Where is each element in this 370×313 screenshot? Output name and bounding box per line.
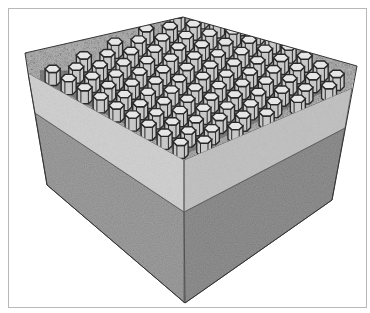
- cell-opening: [164, 86, 179, 93]
- cell-opening: [149, 109, 164, 116]
- cell-opening: [250, 56, 265, 63]
- cell-opening: [61, 74, 76, 81]
- cell-opening: [204, 93, 219, 100]
- cell-opening: [69, 63, 84, 70]
- cell-opening: [109, 102, 124, 109]
- cell-opening: [188, 84, 203, 91]
- cell-wall: [217, 10, 232, 27]
- cell-opening: [243, 100, 258, 107]
- cell-opening: [187, 52, 202, 59]
- cell-opening: [141, 120, 156, 127]
- cell-opening: [201, 0, 216, 5]
- cell-opening: [242, 68, 257, 75]
- cell-opening: [251, 88, 266, 95]
- cell-opening: [322, 82, 337, 89]
- cell-opening: [226, 59, 241, 66]
- cell-opening: [180, 95, 195, 102]
- cell-opening: [148, 77, 163, 84]
- cell-opening: [249, 25, 264, 32]
- cell-opening: [274, 86, 289, 93]
- cell-opening: [157, 129, 172, 136]
- cell-opening: [258, 45, 273, 52]
- cell-opening: [131, 36, 146, 43]
- cell-opening: [162, 22, 177, 29]
- cell-opening: [258, 77, 273, 84]
- cell-opening: [219, 70, 234, 77]
- cell-opening: [155, 34, 170, 41]
- cell-opening: [116, 59, 131, 66]
- cell-opening: [194, 9, 209, 16]
- cell-opening: [108, 38, 123, 45]
- cell-opening: [92, 61, 107, 68]
- cell-opening: [156, 65, 171, 72]
- cell-opening: [233, 16, 248, 23]
- cell-opening: [140, 88, 155, 95]
- cell-opening: [101, 81, 116, 88]
- cell-opening: [172, 106, 187, 113]
- cell-opening: [227, 91, 242, 98]
- cell-opening: [267, 97, 282, 104]
- cell-opening: [274, 54, 289, 61]
- cell-opening: [125, 111, 140, 118]
- cell-opening: [173, 138, 188, 145]
- cell-opening: [147, 45, 162, 52]
- cell-opening: [282, 75, 297, 82]
- cell-opening: [228, 122, 243, 129]
- cell-opening: [290, 63, 305, 70]
- cell-opening: [181, 127, 196, 134]
- cell-opening: [45, 65, 60, 72]
- cell-opening: [265, 34, 280, 41]
- cell-opening: [298, 84, 313, 91]
- cell-opening: [172, 75, 187, 82]
- cell-opening: [178, 31, 193, 38]
- cell-opening: [236, 111, 251, 118]
- cell-opening: [329, 70, 344, 77]
- cell-opening: [171, 43, 186, 50]
- cell-opening: [133, 99, 148, 106]
- cell-opening: [210, 18, 225, 25]
- cell-opening: [211, 81, 226, 88]
- cell-opening: [266, 66, 281, 73]
- cell-opening: [218, 38, 233, 45]
- cell-opening: [93, 93, 108, 100]
- geocell-diagram: [0, 0, 370, 313]
- cell-opening: [188, 115, 203, 122]
- cell-opening: [124, 47, 139, 54]
- cell-wall: [201, 1, 216, 18]
- cell-opening: [204, 125, 219, 132]
- cell-opening: [194, 40, 209, 47]
- cell-opening: [85, 72, 100, 79]
- cell-opening: [117, 90, 132, 97]
- cell-opening: [212, 113, 227, 120]
- cell-opening: [100, 49, 115, 56]
- cell-opening: [210, 50, 225, 57]
- cell-opening: [235, 79, 250, 86]
- cell-opening: [234, 47, 249, 54]
- cell-opening: [179, 63, 194, 70]
- cell-opening: [77, 84, 92, 91]
- cell-opening: [203, 61, 218, 68]
- cell-opening: [124, 79, 139, 86]
- cell-opening: [202, 29, 217, 36]
- cell-opening: [306, 72, 321, 79]
- cell-opening: [217, 6, 232, 13]
- cell-opening: [197, 136, 212, 143]
- cell-opening: [290, 95, 305, 102]
- cell-opening: [165, 118, 180, 125]
- cell-opening: [313, 61, 328, 68]
- cell-opening: [196, 104, 211, 111]
- cell-opening: [76, 52, 91, 59]
- cell-opening: [140, 56, 155, 63]
- cell-opening: [259, 109, 274, 116]
- cell-opening: [156, 97, 171, 104]
- cell-opening: [220, 102, 235, 109]
- cell-opening: [195, 72, 210, 79]
- cell-opening: [108, 70, 123, 77]
- cell-opening: [163, 54, 178, 61]
- cell-opening: [132, 68, 147, 75]
